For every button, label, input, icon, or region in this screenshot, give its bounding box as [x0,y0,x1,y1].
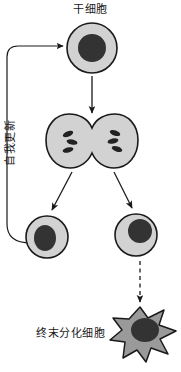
stem-cell-nucleus [78,34,106,62]
dividing-cell [46,114,138,168]
daughter-cell-right [115,214,157,256]
daughter-cell-left [26,216,68,258]
terminal-cell-nucleus [131,318,159,342]
stem-cell-label: 干细胞 [0,4,181,15]
terminally-differentiated-cell-label: 终末分化细胞 [36,328,105,339]
division-to-right-daughter-arrow [114,172,132,208]
terminally-differentiated-cell [110,307,176,362]
division-to-left-daughter-arrow [52,172,72,210]
cell-lineage-diagram [0,0,181,372]
daughter-cell-right-nucleus [128,219,152,243]
self-renewal-label: 自我更新 [5,112,16,174]
daughter-cell-left-nucleus [34,225,56,251]
stem-cell [67,23,117,73]
